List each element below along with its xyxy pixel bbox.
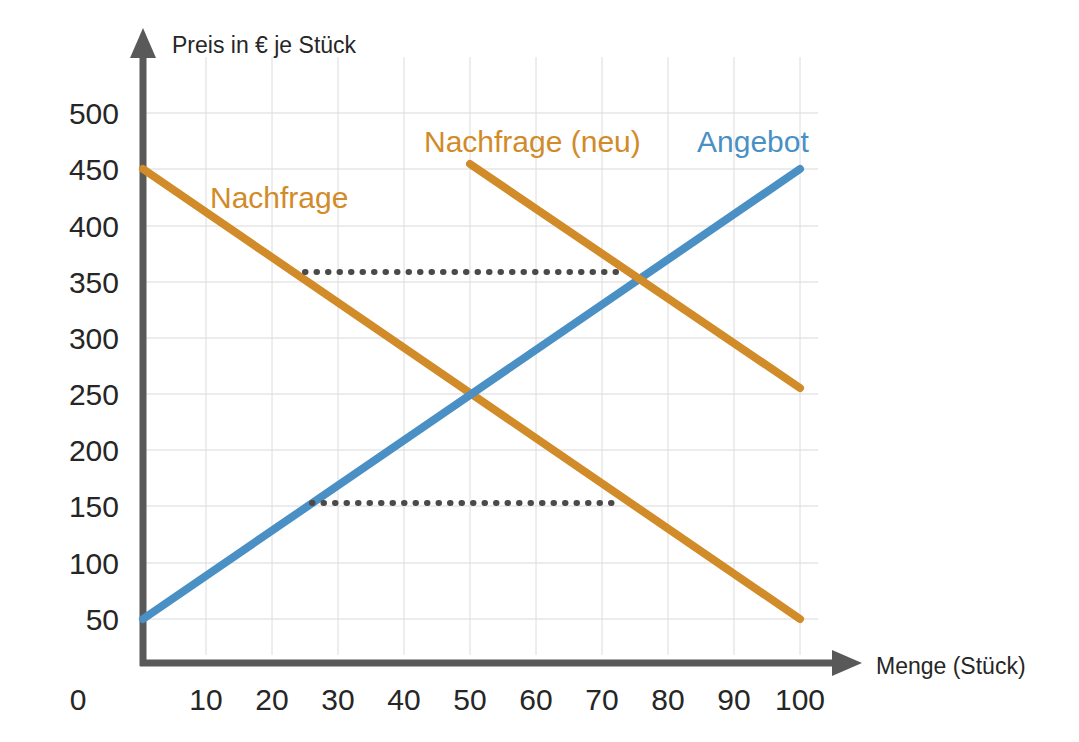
x-axis-title: Menge (Stück) [876,653,1026,679]
y-tick-350: 350 [69,266,119,299]
y-tick-400: 400 [69,210,119,243]
x-tick-70: 70 [585,683,618,716]
x-tick-0: 0 [70,683,87,716]
x-tick-50: 50 [453,683,486,716]
series-label-nachfrage-neu: Nachfrage (neu) [424,125,641,158]
x-tick-80: 80 [651,683,684,716]
y-axis-arrow [130,28,156,58]
x-tick-40: 40 [387,683,420,716]
y-tick-200: 200 [69,434,119,467]
supply-demand-chart: 500 450 400 350 300 250 200 150 100 50 0… [0,0,1079,742]
y-tick-100: 100 [69,547,119,580]
y-tick-500: 500 [69,97,119,130]
y-tick-150: 150 [69,490,119,523]
x-tick-10: 10 [189,683,222,716]
chart-canvas: 500 450 400 350 300 250 200 150 100 50 0… [0,0,1079,742]
series-label-nachfrage: Nachfrage [210,181,348,214]
y-axis-tick-labels: 500 450 400 350 300 250 200 150 100 50 [69,97,119,636]
series-label-angebot: Angebot [697,125,809,158]
x-tick-100: 100 [775,683,825,716]
x-axis-arrow [832,650,862,676]
x-tick-20: 20 [255,683,288,716]
x-tick-30: 30 [321,683,354,716]
y-tick-50: 50 [86,603,119,636]
y-tick-450: 450 [69,153,119,186]
y-tick-300: 300 [69,322,119,355]
x-tick-60: 60 [519,683,552,716]
y-tick-250: 250 [69,378,119,411]
x-axis-tick-labels: 0 10 20 30 40 50 60 70 80 90 100 [70,683,825,716]
x-tick-90: 90 [717,683,750,716]
y-axis-title: Preis in € je Stück [172,32,357,58]
series-line-nachfrage-neu [470,164,800,388]
